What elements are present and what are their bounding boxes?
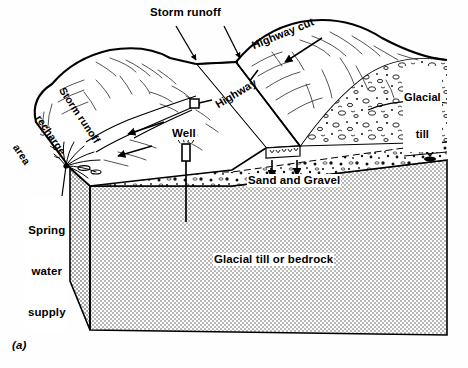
block-diagram-figure	[0, 0, 468, 368]
spring-leader-line	[62, 166, 66, 196]
storm-runoff-callout	[176, 26, 240, 64]
